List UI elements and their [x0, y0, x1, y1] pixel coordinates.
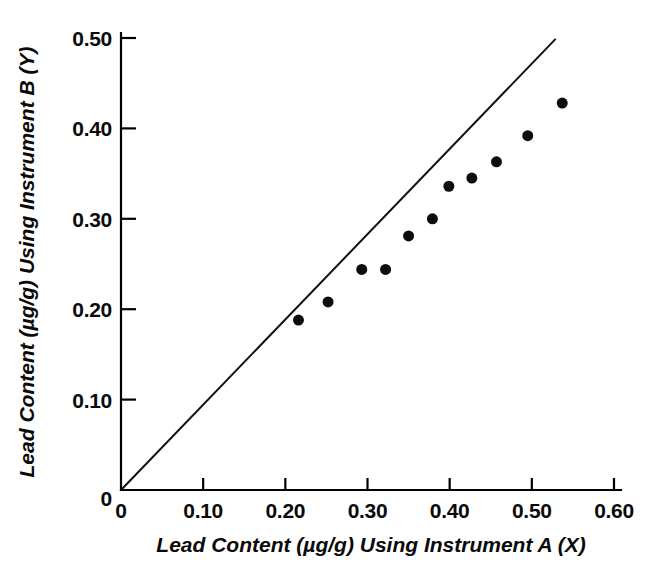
y-tick-label: 0.20	[72, 299, 112, 320]
identity-reference-line	[121, 39, 556, 490]
y-tick-label: 0.30	[72, 208, 112, 229]
data-point-0-0	[293, 315, 304, 326]
x-axis-title: Lead Content (µg/g) Using Instrument A (…	[156, 534, 585, 555]
axes	[121, 33, 621, 490]
data-point-0-5	[427, 213, 438, 224]
x-axis-ticks	[203, 478, 614, 490]
y-axis-ticks	[121, 38, 136, 400]
y-tick-label: 0	[101, 488, 112, 509]
x-tick-label: 0	[115, 500, 126, 521]
data-point-0-7	[466, 173, 477, 184]
data-point-0-10	[557, 98, 568, 109]
y-axis-title: Lead Content (µg/g) Using Instrument B (…	[16, 47, 37, 478]
x-tick-label: 0.40	[430, 500, 470, 521]
data-point-0-6	[443, 181, 454, 192]
data-point-0-4	[403, 230, 414, 241]
x-tick-label: 0.10	[183, 500, 223, 521]
y-tick-label: 0.10	[72, 389, 112, 410]
data-point-0-1	[323, 296, 334, 307]
x-tick-label: 0.50	[512, 500, 552, 521]
data-point-0-8	[491, 156, 502, 167]
data-point-0-9	[522, 130, 533, 141]
y-tick-label: 0.50	[72, 28, 112, 49]
x-tick-label: 0.20	[265, 500, 305, 521]
identity-line	[121, 39, 556, 490]
x-tick-label: 0.30	[348, 500, 388, 521]
data-points	[293, 98, 568, 326]
plot-canvas	[0, 0, 649, 584]
x-tick-label: 0.60	[594, 500, 634, 521]
y-tick-label: 0.40	[72, 118, 112, 139]
data-point-0-3	[380, 264, 391, 275]
data-point-0-2	[356, 264, 367, 275]
scatter-plot-figure: 00.100.200.300.400.500.60 00.100.200.300…	[0, 0, 649, 584]
